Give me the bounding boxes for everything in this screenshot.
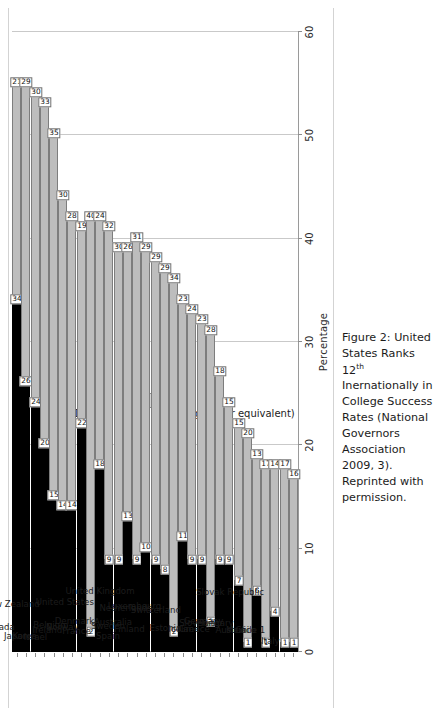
bar-segment-ba-degree	[280, 466, 289, 642]
category-tick	[164, 653, 165, 657]
bar-segment-ba-degree	[58, 197, 67, 507]
bar-segment-aa-degree	[21, 383, 30, 652]
bar-row: 120	[243, 32, 252, 652]
bar-segment-ba-degree	[243, 435, 252, 642]
bar-segment-ba-degree	[95, 218, 104, 466]
bar-segment-ba-degree	[151, 259, 160, 559]
category-tick	[54, 653, 55, 657]
category-tick	[284, 653, 285, 657]
x-axis-tick	[298, 444, 302, 445]
category-tick	[100, 653, 101, 657]
x-axis-tick-label: 50	[304, 115, 315, 155]
bar-row: 234	[169, 32, 178, 652]
category-tick	[118, 653, 119, 657]
category-tick	[266, 653, 267, 657]
bar-row: 1535	[49, 32, 58, 652]
category-tick	[81, 653, 82, 657]
category-tick	[220, 653, 221, 657]
bar-segment-ba-degree	[104, 228, 113, 559]
category-tick	[146, 653, 147, 657]
figure-page: A.A. Degree B.A. Degree (or equivalent) …	[0, 0, 442, 715]
bar-value-label-aa: 1	[280, 637, 289, 647]
bar-segment-ba-degree	[123, 249, 132, 518]
x-axis-tick-label: 0	[304, 632, 315, 672]
bar-row: 924	[187, 32, 196, 652]
category-tick	[293, 653, 294, 657]
bar-row: 117	[280, 32, 289, 652]
category-tick	[238, 653, 239, 657]
category-tick	[275, 653, 276, 657]
x-axis-tick	[298, 134, 302, 135]
category-tick	[137, 653, 138, 657]
x-axis-tick	[298, 238, 302, 239]
bar-row: 929	[151, 32, 160, 652]
bar-segment-ba-degree	[86, 218, 95, 631]
bar-value-label-aa: 9	[225, 555, 234, 565]
bar-segment-ba-degree	[289, 476, 298, 641]
bar-segment-ba-degree	[234, 425, 243, 580]
bar-row: 915	[224, 32, 233, 652]
bar-segment-ba-degree	[178, 301, 187, 539]
x-axis-tick-label: 30	[304, 322, 315, 362]
x-axis-tick	[298, 651, 302, 652]
category-tick	[26, 653, 27, 657]
x-axis-tick-label: 60	[304, 12, 315, 52]
category-tick	[201, 653, 202, 657]
bar-row: 829	[160, 32, 169, 652]
bar-row: 1326	[123, 32, 132, 652]
bar-value-label-aa: 1	[243, 637, 252, 647]
bar-segment-ba-degree	[187, 311, 196, 559]
x-axis-tick-label: 40	[304, 219, 315, 259]
bar-row: 931	[132, 32, 141, 652]
bar-value-label-aa: 9	[114, 555, 123, 565]
bar-row: 2033	[40, 32, 49, 652]
bar-row: 613	[252, 32, 261, 652]
bar-row: 2430	[31, 32, 40, 652]
bar-row: 930	[114, 32, 123, 652]
x-axis-tick	[298, 341, 302, 342]
category-tick	[183, 653, 184, 657]
bar-segment-ba-degree	[12, 84, 21, 301]
bar-value-label-aa: 9	[105, 555, 114, 565]
bar-row: 715	[234, 32, 243, 652]
chart-stage: A.A. Degree B.A. Degree (or equivalent) …	[6, 8, 336, 708]
bar-segment-ba-degree	[141, 249, 150, 549]
category-label: Denmark	[55, 616, 95, 626]
bar-segment-aa-degree	[215, 559, 224, 652]
bar-segment-aa-degree	[187, 559, 196, 652]
x-axis-tick-label: 10	[304, 529, 315, 569]
bar-value-label-aa: 8	[160, 565, 169, 575]
bar-segment-ba-degree	[197, 321, 206, 559]
x-axis-tick	[298, 548, 302, 549]
bar-row: 3421	[12, 32, 21, 652]
category-tick	[44, 653, 45, 657]
bar-segment-ba-degree	[160, 270, 169, 570]
category-label: United Kingdom	[66, 586, 135, 596]
bar-row: 240	[86, 32, 95, 652]
category-tick	[109, 653, 110, 657]
bar-segment-ba-degree	[132, 239, 141, 559]
category-label: Finland	[114, 624, 145, 634]
bar-row: 932	[104, 32, 113, 652]
bar-value-label-aa: 7	[234, 575, 243, 585]
category-tick	[256, 653, 257, 657]
x-axis-tick-label: 20	[304, 425, 315, 465]
bar-value-label-aa: 9	[151, 555, 160, 565]
bar-value-label-aa: 1	[290, 637, 299, 647]
rotated-chart-wrapper: A.A. Degree B.A. Degree (or equivalent) …	[6, 8, 336, 708]
bar-series-container: 3421Russian Federation 12629Canada2430Ja…	[12, 32, 298, 652]
bar-segment-ba-degree	[31, 94, 40, 404]
category-tick	[35, 653, 36, 657]
bar-segment-aa-degree	[252, 590, 261, 652]
category-tick	[173, 653, 174, 657]
bar-segment-ba-degree	[40, 104, 49, 445]
bar-segment-aa-degree	[224, 559, 233, 652]
category-label: New Zealand	[0, 599, 39, 609]
category-tick	[63, 653, 64, 657]
bar-segment-aa-degree	[197, 559, 206, 652]
bar-value-label-aa: 9	[133, 555, 142, 565]
bar-segment-ba-degree	[21, 84, 30, 384]
bar-segment-ba-degree	[252, 456, 261, 590]
bar-row: 2629	[21, 32, 30, 652]
bar-value-label-aa: 4	[271, 606, 280, 616]
